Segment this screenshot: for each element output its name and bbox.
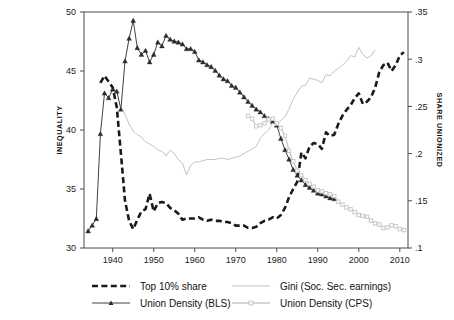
series-marker (382, 226, 385, 229)
series-marker (271, 117, 274, 120)
y-axis-right-tick-label: .25 (415, 102, 428, 112)
series-marker (279, 126, 282, 129)
series-marker (312, 185, 315, 188)
series-marker (246, 114, 249, 117)
series-marker (300, 174, 303, 177)
series-marker (349, 208, 352, 211)
x-axis-tick-label: 1940 (103, 255, 123, 265)
series-marker (332, 194, 335, 197)
series-marker (283, 134, 286, 137)
legend-marker (249, 301, 253, 305)
series-marker (255, 125, 258, 128)
x-axis-tick-label: 1960 (185, 255, 205, 265)
x-axis-tick-label: 1970 (226, 255, 246, 265)
legend-label: Gini (Soc. Sec. earnings) (280, 281, 391, 292)
series-marker (353, 210, 356, 213)
series-marker (263, 122, 266, 125)
series-marker (291, 159, 294, 162)
x-axis-tick-label: 2010 (390, 255, 410, 265)
series-marker (324, 192, 327, 195)
x-axis-tick-label: 1950 (144, 255, 164, 265)
series-marker (357, 213, 360, 216)
chart-background (0, 0, 454, 320)
y-axis-left-tick-label: 30 (66, 243, 76, 253)
series-marker (378, 223, 381, 226)
y-axis-right-tick-label: .35 (415, 7, 428, 17)
series-marker (369, 219, 372, 222)
chart-figure: 3035404550 .1.15.2.25.3.35 1940195019601… (0, 0, 454, 320)
x-axis-tick-label: 1980 (267, 255, 287, 265)
y-axis-right-tick-label: .15 (415, 196, 428, 206)
series-marker (345, 206, 348, 209)
y-axis-right-title: SHARE UNIONIZED (435, 93, 444, 168)
series-marker (320, 190, 323, 193)
series-marker (267, 118, 270, 121)
series-marker (386, 226, 389, 229)
series-marker (250, 117, 253, 120)
series-marker (316, 189, 319, 192)
series-marker (361, 214, 364, 217)
series-marker (394, 225, 397, 228)
series-marker (275, 122, 278, 125)
series-marker (341, 203, 344, 206)
legend-label: Union Density (BLS) (140, 298, 231, 309)
series-marker (373, 222, 376, 225)
series-marker (337, 200, 340, 203)
series-marker (390, 224, 393, 227)
series-marker (398, 227, 401, 230)
series-marker (296, 169, 299, 172)
series-marker (287, 149, 290, 152)
legend-label: Union Density (CPS) (280, 298, 372, 309)
legend-label: Top 10% share (140, 281, 207, 292)
series-marker (304, 178, 307, 181)
y-axis-left-tick-label: 50 (66, 7, 76, 17)
x-axis-tick-label: 2000 (349, 255, 369, 265)
series-marker (402, 228, 405, 231)
series-marker (328, 192, 331, 195)
series-marker (308, 182, 311, 185)
y-axis-left-tick-label: 45 (66, 66, 76, 76)
y-axis-right-tick-label: .1 (415, 243, 423, 253)
y-axis-left-tick-label: 40 (66, 125, 76, 135)
y-axis-left-title: INEQUALITY (55, 105, 64, 154)
x-axis-tick-label: 1990 (308, 255, 328, 265)
y-axis-right-tick-label: .2 (415, 149, 423, 159)
y-axis-left-tick-label: 35 (66, 184, 76, 194)
series-marker (259, 124, 262, 127)
y-axis-right-tick-label: .3 (415, 55, 423, 65)
series-marker (365, 215, 368, 218)
